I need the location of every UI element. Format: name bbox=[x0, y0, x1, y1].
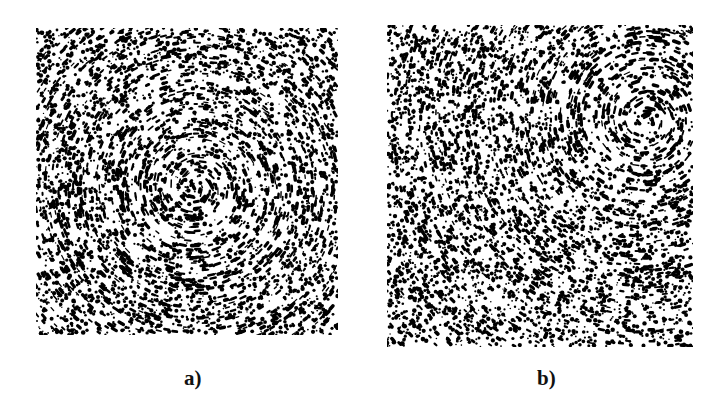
particle-field-panel-a bbox=[36, 28, 338, 335]
particle-scatter bbox=[36, 28, 338, 335]
panel-label-b: b) bbox=[537, 366, 556, 391]
particle-field-panel-b bbox=[387, 25, 693, 347]
panel-label-a: a) bbox=[184, 366, 202, 391]
particle-scatter bbox=[387, 25, 693, 347]
